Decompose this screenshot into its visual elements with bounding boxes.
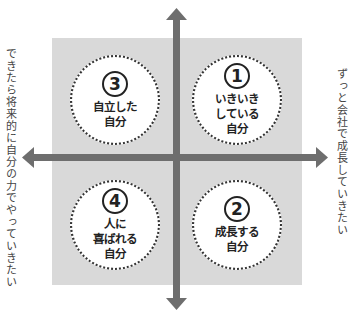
number-badge: 1 (224, 63, 250, 89)
number-badge: 3 (102, 71, 128, 97)
quadrant-label: 成長する 自分 (215, 225, 259, 255)
quadrant-1-circle: 1 いきいき している 自分 (192, 55, 282, 145)
quadrant-label: 人に 喜ばれる 自分 (93, 217, 137, 262)
quadrant-3-circle: 3 自立した 自分 (70, 55, 160, 145)
left-axis-label: できたら将来的に自分の力でやっていきたい (2, 48, 18, 288)
number-badge: 2 (224, 196, 250, 222)
quadrant-label: 自立した 自分 (93, 100, 137, 130)
number-badge: 4 (102, 188, 128, 214)
axis-arrows (0, 0, 349, 316)
quadrant-label: いきいき している 自分 (215, 92, 259, 137)
quadrant-2-circle: 2 成長する 自分 (192, 180, 282, 270)
right-axis-label: ずっと会社で成長していきたい (333, 68, 349, 236)
quadrant-4-circle: 4 人に 喜ばれる 自分 (70, 180, 160, 270)
